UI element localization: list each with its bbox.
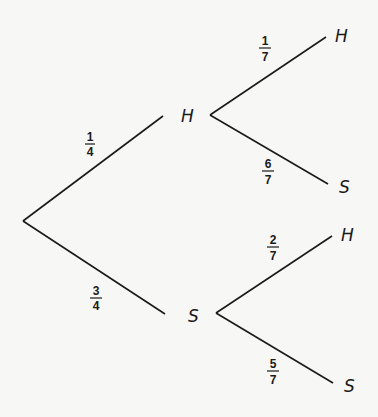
fraction-denominator: 7 <box>265 173 272 187</box>
fraction-numerator: 2 <box>270 233 277 247</box>
node-label-s1: S <box>188 306 199 326</box>
fraction-denominator: 7 <box>270 249 277 263</box>
fraction-numerator: 1 <box>87 130 94 144</box>
fraction-denominator: 4 <box>87 145 94 159</box>
fraction-denominator: 4 <box>93 299 100 313</box>
fraction-2-7: 2 7 <box>267 233 279 263</box>
tree-canvas: H S H S H S 1 4 3 4 1 7 6 7 <box>0 0 378 417</box>
fraction-numerator: 3 <box>93 284 100 298</box>
fraction-5-7: 5 7 <box>267 357 279 387</box>
fraction-denominator: 7 <box>270 373 277 387</box>
node-label-h1: H <box>181 106 194 126</box>
fraction-numerator: 1 <box>262 34 269 48</box>
fraction-1-4: 1 4 <box>85 130 95 159</box>
node-label-sh: H <box>341 225 354 245</box>
node-label-ss: S <box>344 376 355 396</box>
fraction-denominator: 7 <box>262 50 269 64</box>
node-label-hh: H <box>335 26 348 46</box>
branch-h-to-h <box>210 37 326 115</box>
fraction-1-7: 1 7 <box>259 34 271 64</box>
fraction-numerator: 6 <box>265 157 272 171</box>
probability-tree-diagram: H S H S H S 1 4 3 4 1 7 6 7 <box>0 0 378 417</box>
fraction-6-7: 6 7 <box>262 157 274 187</box>
fraction-numerator: 5 <box>270 357 277 371</box>
node-label-hs: S <box>339 177 350 197</box>
fraction-3-4: 3 4 <box>90 284 102 313</box>
